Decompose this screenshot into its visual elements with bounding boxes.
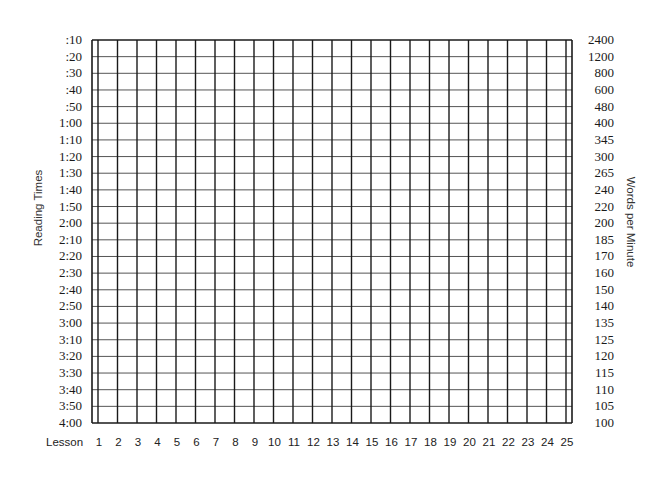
lesson-tick: 21 <box>479 435 499 449</box>
reading-time-tick: 4:00 <box>22 416 82 430</box>
wpm-tick: 110 <box>569 383 614 397</box>
x-axis-title: Lesson <box>46 435 83 449</box>
reading-time-tick: :40 <box>22 83 82 97</box>
wpm-tick: 2400 <box>569 33 614 47</box>
lesson-tick: 4 <box>148 435 168 449</box>
reading-time-tick: :10 <box>22 33 82 47</box>
wpm-tick: 160 <box>569 266 614 280</box>
reading-time-tick: 3:50 <box>22 399 82 413</box>
lesson-tick: 3 <box>128 435 148 449</box>
wpm-tick: 100 <box>569 416 614 430</box>
reading-time-tick: 2:50 <box>22 299 82 313</box>
wpm-tick: 240 <box>569 183 614 197</box>
wpm-tick: 150 <box>569 283 614 297</box>
reading-time-tick: :50 <box>22 100 82 114</box>
lesson-tick: 13 <box>323 435 343 449</box>
reading-time-tick: 3:30 <box>22 366 82 380</box>
lesson-tick: 9 <box>245 435 265 449</box>
left-axis-title: Reading Times <box>31 170 45 247</box>
wpm-tick: 1200 <box>569 50 614 64</box>
lesson-tick: 8 <box>226 435 246 449</box>
lesson-tick: 15 <box>362 435 382 449</box>
reading-time-tick: 3:10 <box>22 333 82 347</box>
lesson-tick: 7 <box>206 435 226 449</box>
chart-grid <box>0 0 655 483</box>
wpm-tick: 185 <box>569 233 614 247</box>
wpm-tick: 120 <box>569 349 614 363</box>
lesson-tick: 10 <box>265 435 285 449</box>
wpm-tick: 200 <box>569 216 614 230</box>
reading-time-tick: 2:40 <box>22 283 82 297</box>
wpm-tick: 345 <box>569 133 614 147</box>
lesson-tick: 19 <box>440 435 460 449</box>
wpm-tick: 220 <box>569 200 614 214</box>
lesson-tick: 5 <box>167 435 187 449</box>
wpm-tick: 125 <box>569 333 614 347</box>
wpm-tick: 170 <box>569 249 614 263</box>
lesson-tick: 23 <box>518 435 538 449</box>
reading-time-tick: :30 <box>22 66 82 80</box>
wpm-tick: 115 <box>569 366 614 380</box>
wpm-tick: 265 <box>569 166 614 180</box>
right-axis-title: Words per Minute <box>624 177 638 268</box>
lesson-tick: 22 <box>499 435 519 449</box>
reading-time-tick: 3:40 <box>22 383 82 397</box>
lesson-tick: 12 <box>304 435 324 449</box>
wpm-tick: 600 <box>569 83 614 97</box>
lesson-tick: 1 <box>89 435 109 449</box>
wpm-tick: 140 <box>569 299 614 313</box>
lesson-tick: 6 <box>187 435 207 449</box>
lesson-tick: 20 <box>460 435 480 449</box>
lesson-tick: 17 <box>401 435 421 449</box>
lesson-tick: 2 <box>109 435 129 449</box>
reading-time-tick: 1:00 <box>22 116 82 130</box>
wpm-tick: 480 <box>569 100 614 114</box>
wpm-tick: 135 <box>569 316 614 330</box>
lesson-tick: 11 <box>284 435 304 449</box>
reading-progress-chart: :10:20:30:40:501:001:101:201:301:401:502… <box>0 0 655 483</box>
reading-time-tick: 2:30 <box>22 266 82 280</box>
reading-time-tick: 1:20 <box>22 150 82 164</box>
reading-time-tick: 3:20 <box>22 349 82 363</box>
lesson-tick: 25 <box>557 435 577 449</box>
wpm-tick: 105 <box>569 399 614 413</box>
reading-time-tick: :20 <box>22 50 82 64</box>
wpm-tick: 300 <box>569 150 614 164</box>
lesson-tick: 18 <box>421 435 441 449</box>
lesson-tick: 14 <box>343 435 363 449</box>
lesson-tick: 24 <box>538 435 558 449</box>
wpm-tick: 400 <box>569 116 614 130</box>
reading-time-tick: 1:10 <box>22 133 82 147</box>
reading-time-tick: 2:20 <box>22 249 82 263</box>
reading-time-tick: 3:00 <box>22 316 82 330</box>
lesson-tick: 16 <box>382 435 402 449</box>
wpm-tick: 800 <box>569 66 614 80</box>
